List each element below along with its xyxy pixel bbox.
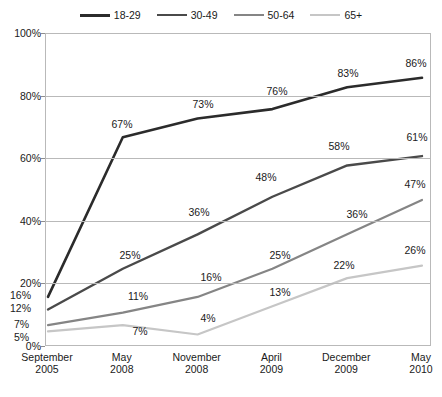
x-axis-tick-label-line: September (21, 351, 72, 363)
data-point-label: 22% (333, 260, 354, 271)
data-point-label: 16% (10, 290, 31, 301)
data-point-label: 26% (404, 245, 425, 256)
x-axis-tick-label: September2005 (21, 351, 72, 375)
legend-swatch-icon (80, 14, 110, 17)
data-point-label: 67% (111, 119, 132, 130)
x-axis-tick-label-line: April (260, 351, 283, 363)
data-point-label: 5% (14, 332, 29, 343)
y-axis-tick-label: 80% (0, 90, 41, 101)
series-line-65plus (48, 266, 422, 335)
data-point-label: 25% (119, 250, 140, 261)
x-axis-tick-label: November2008 (172, 351, 220, 375)
x-axis: September2005May2008November2008April200… (45, 351, 431, 383)
data-point-label: 76% (266, 86, 287, 97)
data-point-label: 61% (406, 132, 427, 143)
legend-item-30-49[interactable]: 30-49 (157, 10, 218, 21)
data-point-label: 86% (405, 58, 426, 69)
x-axis-tick-label: April2009 (260, 351, 283, 375)
y-axis-tick-label: 100% (0, 28, 41, 39)
data-point-label: 7% (14, 319, 29, 330)
y-axis-tick-label: 60% (0, 153, 41, 164)
data-point-label: 73% (192, 99, 213, 110)
x-axis-tick-label-line: May (409, 351, 432, 363)
x-axis-tick-label-line: 2009 (322, 363, 370, 375)
legend-item-50-64[interactable]: 50-64 (234, 10, 295, 21)
legend-item-18-29[interactable]: 18-29 (80, 10, 141, 21)
line-chart: 18-2930-4950-6465+ 0%20%40%60%80%100% Se… (0, 0, 442, 397)
data-point-label: 13% (269, 287, 290, 298)
x-axis-tick-label-line: 2008 (172, 363, 220, 375)
legend-label: 30-49 (191, 10, 218, 21)
legend-swatch-icon (157, 14, 187, 16)
x-axis-tick-label-line: 2005 (21, 363, 72, 375)
plot-area (45, 33, 431, 346)
data-point-label: 83% (337, 68, 358, 79)
y-axis-tick-mark (41, 346, 45, 347)
data-point-label: 36% (346, 209, 367, 220)
x-axis-tick-label-line: 2010 (409, 363, 432, 375)
data-point-label: 36% (188, 207, 209, 218)
y-axis-tick-label: 20% (0, 278, 41, 289)
y-axis-tick-label: 40% (0, 216, 41, 227)
data-point-label: 58% (328, 141, 349, 152)
x-axis-tick-label-line: December (322, 351, 370, 363)
series-lines (46, 34, 432, 347)
data-point-label: 7% (132, 326, 147, 337)
gridline (46, 158, 430, 159)
data-point-label: 12% (10, 303, 31, 314)
gridline (46, 221, 430, 222)
series-line-18-29 (48, 78, 422, 297)
data-point-label: 47% (404, 179, 425, 190)
legend-label: 65+ (344, 10, 362, 21)
legend-item-65plus[interactable]: 65+ (310, 10, 362, 21)
data-point-label: 11% (128, 291, 148, 302)
legend-label: 18-29 (114, 10, 141, 21)
gridline (46, 283, 430, 284)
legend-swatch-icon (310, 14, 340, 16)
x-axis-tick-label-line: 2009 (260, 363, 283, 375)
legend-swatch-icon (234, 14, 264, 16)
x-axis-tick-label: December2009 (322, 351, 370, 375)
x-axis-tick-label: May2010 (409, 351, 432, 375)
x-axis-tick-label-line: 2008 (110, 363, 133, 375)
data-point-label: 25% (269, 250, 290, 261)
chart-legend: 18-2930-4950-6465+ (0, 6, 442, 24)
data-point-label: 48% (255, 172, 276, 183)
data-point-label: 4% (200, 313, 215, 324)
x-axis-tick-label-line: May (110, 351, 133, 363)
gridline (46, 96, 430, 97)
x-axis-tick-label: May2008 (110, 351, 133, 375)
x-axis-tick-label-line: November (172, 351, 220, 363)
legend-label: 50-64 (268, 10, 295, 21)
data-point-label: 16% (200, 272, 221, 283)
